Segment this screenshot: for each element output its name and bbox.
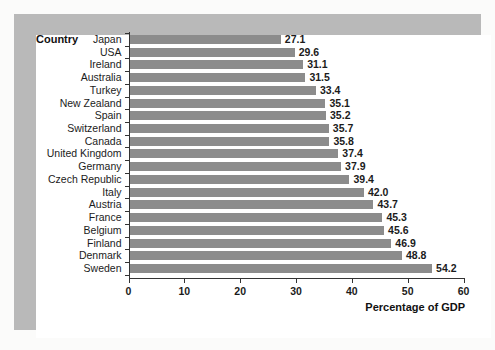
bar-value-label: 31.5 (309, 72, 329, 83)
bar (130, 200, 374, 209)
bar-value-label: 37.4 (342, 148, 362, 159)
bar (130, 226, 385, 235)
bar (130, 111, 327, 120)
y-axis-tick (125, 135, 129, 136)
bar (130, 213, 383, 222)
category-label: USA (0, 47, 122, 58)
y-axis-tick (125, 160, 129, 161)
x-axis-title: Percentage of GDP (280, 301, 465, 313)
x-axis-tick (408, 279, 409, 283)
y-axis-tick (125, 97, 129, 98)
category-label: Spain (0, 110, 122, 121)
y-axis-tick (125, 33, 129, 34)
y-axis-tick (125, 237, 129, 238)
category-label: Switzerland (0, 123, 122, 134)
y-axis-tick (125, 122, 129, 123)
bar-value-label: 45.3 (386, 212, 406, 223)
category-label: Finland (0, 238, 122, 249)
y-axis-tick (125, 275, 129, 276)
x-axis-tick (296, 279, 297, 283)
bar-value-label: 27.1 (285, 34, 305, 45)
bar-value-label: 31.1 (307, 59, 327, 70)
bar-value-label: 46.9 (395, 238, 415, 249)
category-label: United Kingdom (0, 148, 122, 159)
x-axis-tick-label: 20 (220, 285, 260, 297)
chart-screenshot: Country Percentage of GDP 27.1Japan29.6U… (0, 0, 495, 350)
bar-value-label: 33.4 (320, 85, 340, 96)
bar (130, 86, 316, 95)
y-axis-tick (125, 109, 129, 110)
x-axis-tick (240, 279, 241, 283)
category-label: New Zealand (0, 98, 122, 109)
bar (130, 251, 402, 260)
bar-value-label: 39.4 (353, 174, 373, 185)
bar-value-label: 43.7 (377, 199, 397, 210)
x-axis-tick-label: 30 (276, 285, 316, 297)
category-label: Belgium (0, 225, 122, 236)
y-axis-tick (125, 84, 129, 85)
bar (130, 99, 326, 108)
category-label: Canada (0, 136, 122, 147)
x-axis-tick (184, 279, 185, 283)
category-label: Germany (0, 161, 122, 172)
x-axis-tick-label: 40 (332, 285, 372, 297)
x-axis-tick (129, 279, 130, 283)
y-axis-tick (125, 211, 129, 212)
bar (130, 188, 365, 197)
y-axis-tick (125, 147, 129, 148)
bar-value-label: 35.7 (333, 123, 353, 134)
category-label: Australia (0, 72, 122, 83)
category-label: Czech Republic (0, 174, 122, 185)
bar-value-label: 54.2 (436, 263, 456, 274)
y-axis-tick (125, 198, 129, 199)
chart-plot-area: Country Percentage of GDP 27.1Japan29.6U… (0, 0, 495, 350)
bar (130, 48, 295, 57)
x-axis-tick-label: 10 (164, 285, 204, 297)
category-label: Turkey (0, 85, 122, 96)
bar (130, 73, 306, 82)
x-axis-tick-label: 50 (388, 285, 428, 297)
bar (130, 35, 281, 44)
bar-value-label: 35.1 (329, 98, 349, 109)
y-axis-tick (125, 262, 129, 263)
bar-value-label: 48.8 (406, 250, 426, 261)
bar (130, 162, 342, 171)
bar-value-label: 29.6 (299, 47, 319, 58)
bar-value-label: 45.6 (388, 225, 408, 236)
y-axis-tick (125, 46, 129, 47)
bar (130, 175, 350, 184)
category-label: Italy (0, 187, 122, 198)
x-axis-tick-label: 60 (444, 285, 484, 297)
bar-value-label: 37.9 (345, 161, 365, 172)
bar-value-label: 35.8 (333, 136, 353, 147)
category-label: Austria (0, 199, 122, 210)
y-axis-tick (125, 71, 129, 72)
category-label: Ireland (0, 59, 122, 70)
bar (130, 239, 392, 248)
bar (130, 60, 304, 69)
bar (130, 137, 330, 146)
category-label: Sweden (0, 263, 122, 274)
y-axis-tick (125, 224, 129, 225)
y-axis-tick (125, 58, 129, 59)
y-axis-tick (125, 173, 129, 174)
bar (130, 124, 329, 133)
x-axis-tick-label: 0 (109, 285, 149, 297)
bar-value-label: 42.0 (368, 187, 388, 198)
bar (130, 149, 339, 158)
bar (130, 264, 433, 273)
x-axis-tick (464, 279, 465, 283)
x-axis-tick (352, 279, 353, 283)
bar-value-label: 35.2 (330, 110, 350, 121)
y-axis-tick (125, 249, 129, 250)
category-label: Japan (0, 34, 122, 45)
y-axis-tick (125, 186, 129, 187)
category-label: Denmark (0, 250, 122, 261)
category-label: France (0, 212, 122, 223)
